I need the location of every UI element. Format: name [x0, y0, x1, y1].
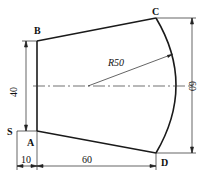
dim-60-bottom: 60	[82, 154, 92, 165]
arrow-left-icon	[37, 165, 43, 168]
radius-leader	[88, 54, 173, 86]
dim-60-right: 60	[187, 81, 198, 91]
label-B: B	[34, 25, 41, 36]
edge-BC	[37, 18, 156, 41]
outline	[37, 18, 176, 153]
technical-drawing: B C S A D 40 60 10 60 R50	[0, 0, 202, 186]
dim-R50: R50	[107, 57, 124, 68]
label-S: S	[7, 126, 13, 137]
label-D: D	[161, 157, 168, 168]
label-C: C	[152, 6, 159, 17]
arrow-right-icon	[150, 165, 156, 168]
arrow-right-icon	[31, 165, 37, 168]
arrow-up-icon	[25, 41, 28, 47]
dim-40: 40	[8, 87, 19, 97]
edge-AD	[37, 131, 156, 153]
arc-CD	[156, 18, 176, 153]
arrow-down-icon	[191, 147, 194, 153]
label-A: A	[27, 137, 35, 148]
arrow-down-icon	[25, 125, 28, 131]
dim-10: 10	[21, 154, 31, 165]
arrow-up-icon	[191, 18, 194, 24]
